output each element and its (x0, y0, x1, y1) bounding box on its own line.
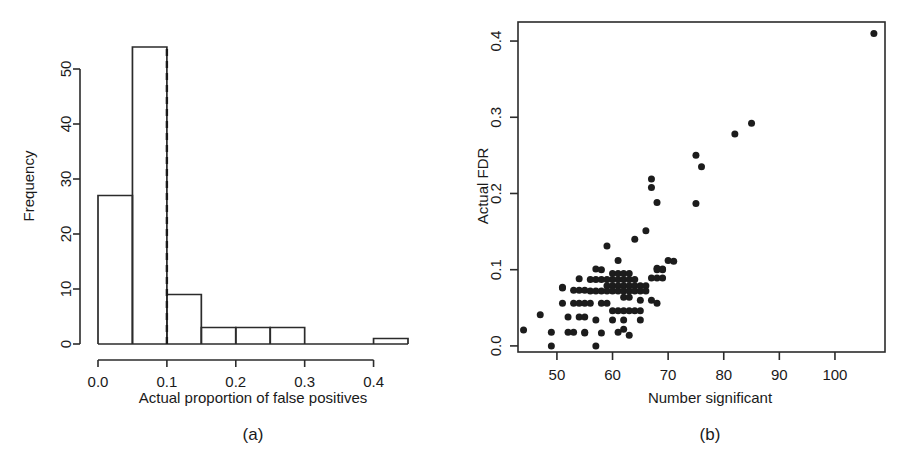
scatter-point (870, 30, 877, 37)
scatter-svg: 5060708090100 0.00.10.20.30.4 Actual FDR… (460, 0, 911, 465)
scatter-point (626, 294, 633, 301)
scatter-point (592, 342, 599, 349)
histogram-y-tick-label: 40 (57, 116, 74, 133)
histogram-bar (98, 196, 132, 345)
histogram-x-axis: 0.00.10.20.30.4 (88, 360, 384, 390)
scatter-point (598, 329, 605, 336)
scatter-point (648, 176, 655, 183)
scatter-point (609, 316, 616, 323)
scatter-x-tick-label: 100 (822, 366, 847, 383)
scatter-point (548, 329, 555, 336)
histogram-y-tick-label: 20 (57, 226, 74, 243)
scatter-point (637, 316, 644, 323)
scatter-y-tick-label: 0.3 (488, 107, 505, 128)
scatter-point (603, 300, 610, 307)
histogram-x-tick-label: 0.2 (225, 373, 246, 390)
scatter-point (637, 307, 644, 314)
scatter-y-tick-label: 0.1 (488, 259, 505, 280)
histogram-bar (270, 328, 304, 345)
scatter-point (570, 329, 577, 336)
scatter-point (642, 227, 649, 234)
scatter-y-tick-label: 0.4 (488, 31, 505, 52)
histogram-bars-group (98, 47, 408, 344)
scatter-point (576, 275, 583, 282)
panel-a-caption: (a) (243, 425, 264, 444)
scatter-point (654, 300, 661, 307)
scatter-point (592, 316, 599, 323)
histogram-svg: 0.00.10.20.30.4 01020304050 Frequency Ac… (0, 0, 460, 465)
scatter-y-tick-label: 0.0 (488, 335, 505, 356)
scatter-point (631, 276, 638, 283)
scatter-point (692, 152, 699, 159)
scatter-point (559, 284, 566, 291)
scatter-point (692, 200, 699, 207)
scatter-point (731, 131, 738, 138)
scatter-point (537, 311, 544, 318)
histogram-x-tick-label: 0.3 (294, 373, 315, 390)
scatter-point (548, 342, 555, 349)
histogram-bar (201, 328, 235, 345)
histogram-y-axis-title: Frequency (20, 150, 37, 221)
scatter-points-group (520, 30, 877, 349)
scatter-point (598, 266, 605, 273)
histogram-y-tick-label: 0 (57, 340, 74, 348)
scatter-point (631, 236, 638, 243)
scatter-point (642, 288, 649, 295)
scatter-x-tick-label: 70 (660, 366, 677, 383)
scatter-point (654, 199, 661, 206)
scatter-point (698, 163, 705, 170)
scatter-y-axis: 0.00.10.20.30.4 (488, 31, 519, 357)
histogram-x-tick-label: 0.1 (156, 373, 177, 390)
scatter-x-tick-label: 80 (715, 366, 732, 383)
scatter-x-axis: 5060708090100 (549, 352, 848, 383)
panel-b-scatter: 5060708090100 0.00.10.20.30.4 Actual FDR… (460, 0, 911, 465)
scatter-x-tick-label: 50 (549, 366, 566, 383)
panel-a-histogram: 0.00.10.20.30.4 01020304050 Frequency Ac… (0, 0, 460, 465)
scatter-point (520, 326, 527, 333)
scatter-point (648, 184, 655, 191)
scatter-x-axis-title: Number significant (648, 389, 773, 406)
scatter-x-tick-label: 90 (771, 366, 788, 383)
scatter-point (581, 313, 588, 320)
scatter-point (670, 258, 677, 265)
scatter-point (587, 300, 594, 307)
histogram-x-tick-label: 0.0 (88, 373, 109, 390)
scatter-point (565, 313, 572, 320)
histogram-bar (167, 295, 201, 345)
histogram-x-axis-title: Actual proportion of false positives (139, 389, 367, 406)
scatter-y-axis-title: Actual FDR (474, 147, 491, 224)
histogram-bar (236, 328, 270, 345)
scatter-point (637, 297, 644, 304)
scatter-x-tick-label: 60 (604, 366, 621, 383)
scatter-point (659, 275, 666, 282)
scatter-point (620, 316, 627, 323)
figure-container: 0.00.10.20.30.4 01020304050 Frequency Ac… (0, 0, 911, 465)
scatter-point (559, 300, 566, 307)
scatter-point (603, 243, 610, 250)
scatter-point (581, 329, 588, 336)
histogram-bar (132, 47, 166, 344)
histogram-x-tick-label: 0.4 (363, 373, 384, 390)
histogram-y-tick-label: 30 (57, 171, 74, 188)
panel-b-caption: (b) (700, 425, 721, 444)
scatter-point (748, 120, 755, 127)
scatter-point (659, 266, 666, 273)
scatter-point (626, 332, 633, 339)
histogram-y-axis: 01020304050 (57, 61, 81, 349)
scatter-point (615, 257, 622, 264)
histogram-y-tick-label: 50 (57, 61, 74, 78)
histogram-y-tick-label: 10 (57, 281, 74, 298)
scatter-point (615, 329, 622, 336)
scatter-point (626, 270, 633, 277)
